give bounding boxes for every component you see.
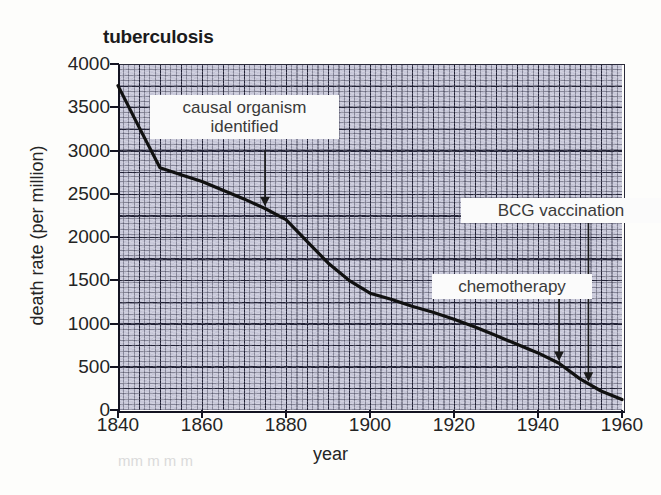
- y-axis-title: death rate (per million): [27, 106, 48, 366]
- y-tick-label: 2000: [68, 226, 110, 248]
- y-tick-label: 3000: [68, 140, 110, 162]
- y-tick-mark: [110, 323, 119, 325]
- cut-off-caption-fragment: mm m m m: [118, 452, 193, 469]
- x-tick-mark: [201, 410, 203, 418]
- y-tick-label: 500: [78, 356, 110, 378]
- annotation-bcg-vaccination: BCG vaccination: [461, 198, 661, 223]
- x-tick-mark: [537, 410, 539, 418]
- annotation-causal-organism: causal organism identified: [150, 95, 339, 139]
- y-tick-label: 1500: [68, 269, 110, 291]
- y-tick-label: 1000: [68, 313, 110, 335]
- y-tick-mark: [110, 63, 119, 65]
- x-tick-mark: [369, 410, 371, 418]
- y-tick-label: 4000: [68, 53, 110, 75]
- annotation-chemotherapy: chemotherapy: [432, 274, 592, 299]
- figure-tuberculosis-death-rate: tuberculosis 050010001500200025003000350…: [0, 0, 661, 495]
- y-axis-ticks: 05001000150020002500300035004000: [0, 0, 110, 495]
- x-axis-title: year: [0, 444, 661, 465]
- x-tick-mark: [285, 410, 287, 418]
- x-tick-mark: [117, 410, 119, 418]
- y-tick-mark: [110, 106, 119, 108]
- y-tick-label: 2500: [68, 183, 110, 205]
- x-tick-mark: [621, 410, 623, 418]
- chart-title: tuberculosis: [103, 26, 214, 48]
- y-tick-mark: [110, 279, 119, 281]
- y-tick-mark: [110, 193, 119, 195]
- y-tick-mark: [110, 366, 119, 368]
- x-tick-mark: [453, 410, 455, 418]
- y-tick-mark: [110, 150, 119, 152]
- y-tick-mark: [110, 236, 119, 238]
- y-tick-label: 3500: [68, 96, 110, 118]
